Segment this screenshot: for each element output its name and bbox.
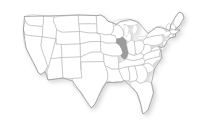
state-NM[interactable] — [62, 57, 82, 79]
state-MT[interactable] — [54, 15, 80, 32]
us-states-map[interactable] — [0, 0, 202, 135]
state-CO[interactable] — [62, 44, 81, 58]
map-shadow-group — [23, 12, 184, 114]
state-ND[interactable] — [79, 15, 97, 24]
us-map-figure: Map of the United States with Illinois s… — [0, 0, 202, 135]
great-lake-huron — [132, 25, 138, 34]
state-WY[interactable] — [56, 30, 80, 45]
